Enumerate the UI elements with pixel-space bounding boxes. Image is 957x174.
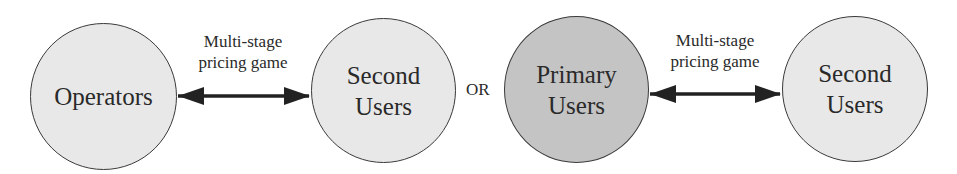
bidirectional-arrow-right (650, 85, 781, 103)
primary-users-label-line-1: Primary (536, 59, 617, 90)
bidirectional-arrow-left (178, 87, 310, 105)
edge-label-line-2: pricing game (645, 51, 785, 72)
second-users-label-line-2: Users (355, 91, 412, 122)
second-users-node-1: Second Users (311, 18, 456, 163)
primary-users-node: Primary Users (504, 16, 649, 163)
edge-label-line-1: Multi-stage (173, 31, 313, 52)
second-users-label-line-1: Second (818, 58, 892, 89)
edge-label-left: Multi-stage pricing game (173, 31, 313, 73)
second-users-label-line-2: Users (827, 89, 884, 120)
operators-node: Operators (30, 23, 177, 170)
or-separator: OR (466, 80, 490, 100)
second-users-node-2: Second Users (782, 16, 928, 162)
primary-users-label-line-2: Users (548, 90, 605, 121)
edge-label-right: Multi-stage pricing game (645, 30, 785, 72)
edge-label-line-2: pricing game (173, 52, 313, 73)
edge-label-line-1: Multi-stage (645, 30, 785, 51)
second-users-label-line-1: Second (347, 60, 421, 91)
operators-label: Operators (54, 81, 153, 112)
